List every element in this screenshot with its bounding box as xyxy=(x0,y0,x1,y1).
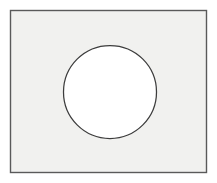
figure-canvas xyxy=(0,0,217,183)
figure-svg xyxy=(0,0,217,183)
circle-shape xyxy=(64,46,157,139)
